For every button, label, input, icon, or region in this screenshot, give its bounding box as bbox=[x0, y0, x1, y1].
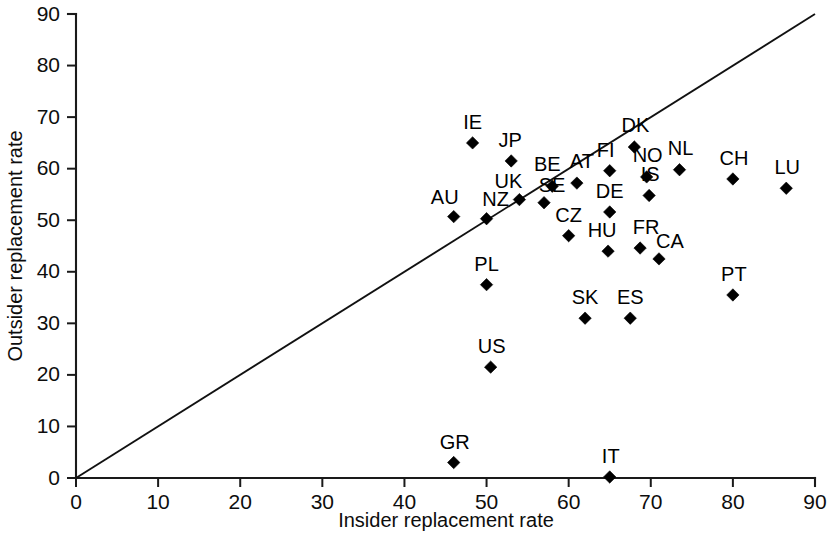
y-tick-label-0: 0 bbox=[48, 466, 60, 489]
x-tick-label-80: 80 bbox=[721, 490, 744, 513]
y-tick-label-50: 50 bbox=[37, 208, 60, 231]
data-point-label-pt: PT bbox=[721, 263, 747, 285]
data-point-jp bbox=[505, 155, 517, 167]
data-point-ca bbox=[653, 253, 665, 265]
data-point-lu bbox=[780, 182, 792, 194]
equality-reference-line bbox=[76, 14, 815, 478]
data-point-label-be: BE bbox=[534, 153, 561, 175]
y-tick-label-40: 40 bbox=[37, 259, 60, 282]
y-tick-label-60: 60 bbox=[37, 156, 60, 179]
data-point-de bbox=[604, 206, 616, 218]
y-tick-label-80: 80 bbox=[37, 53, 60, 76]
data-point-label-nl: NL bbox=[668, 137, 694, 159]
data-point-label-au: AU bbox=[431, 186, 459, 208]
data-point-uk bbox=[513, 193, 525, 205]
data-point-it bbox=[604, 471, 616, 483]
scatter-chart-figure: 0102030405060708090 0102030405060708090 … bbox=[0, 0, 832, 536]
data-point-label-gr: GR bbox=[440, 431, 470, 453]
x-tick-label-30: 30 bbox=[311, 490, 334, 513]
x-tick-label-70: 70 bbox=[639, 490, 662, 513]
y-axis-ticks bbox=[67, 14, 76, 478]
data-point-label-es: ES bbox=[617, 286, 644, 308]
data-point-label-sk: SK bbox=[572, 286, 599, 308]
data-point-label-ie: IE bbox=[463, 111, 482, 133]
y-tick-label-70: 70 bbox=[37, 105, 60, 128]
data-point-cz bbox=[562, 229, 574, 241]
x-axis-ticks bbox=[76, 478, 815, 487]
data-point-ch bbox=[727, 173, 739, 185]
data-point-label-se: SE bbox=[539, 174, 566, 196]
x-tick-label-20: 20 bbox=[229, 490, 252, 513]
data-point-fr bbox=[634, 242, 646, 254]
data-point-us bbox=[484, 361, 496, 373]
y-axis-tick-labels: 0102030405060708090 bbox=[37, 2, 60, 489]
data-point-fi bbox=[604, 165, 616, 177]
data-point-pt bbox=[727, 289, 739, 301]
data-point-label-hu: HU bbox=[588, 219, 617, 241]
data-point-hu bbox=[602, 245, 614, 257]
scatter-plot-canvas: 0102030405060708090 0102030405060708090 … bbox=[0, 0, 832, 536]
data-point-at bbox=[571, 177, 583, 189]
y-tick-label-10: 10 bbox=[37, 414, 60, 437]
data-point-label-ca: CA bbox=[656, 230, 684, 252]
y-tick-label-90: 90 bbox=[37, 2, 60, 25]
data-point-ie bbox=[466, 137, 478, 149]
data-point-label-us: US bbox=[478, 335, 506, 357]
data-point-au bbox=[448, 210, 460, 222]
data-point-sk bbox=[579, 312, 591, 324]
data-point-label-fi: FI bbox=[597, 139, 615, 161]
x-axis-title: Insider replacement rate bbox=[338, 509, 554, 531]
data-point-label-ch: CH bbox=[719, 147, 748, 169]
x-tick-label-90: 90 bbox=[803, 490, 826, 513]
data-point-gr bbox=[448, 456, 460, 468]
data-point-is bbox=[643, 189, 655, 201]
data-point-label-it: IT bbox=[602, 445, 620, 467]
data-point-label-lu: LU bbox=[774, 156, 800, 178]
y-axis-title: Outsider replacement rate bbox=[4, 130, 26, 361]
data-point-label-is: IS bbox=[641, 163, 660, 185]
x-tick-label-10: 10 bbox=[146, 490, 169, 513]
data-point-label-at: AT bbox=[570, 150, 594, 172]
data-point-label-pl: PL bbox=[474, 253, 498, 275]
y-tick-label-30: 30 bbox=[37, 311, 60, 334]
data-point-pl bbox=[480, 278, 492, 290]
data-point-label-dk: DK bbox=[621, 114, 649, 136]
data-point-label-de: DE bbox=[596, 180, 624, 202]
data-point-label-jp: JP bbox=[499, 129, 522, 151]
data-point-es bbox=[624, 312, 636, 324]
data-point-label-uk: UK bbox=[495, 170, 523, 192]
x-tick-label-0: 0 bbox=[70, 490, 82, 513]
data-point-se bbox=[538, 196, 550, 208]
data-point-nl bbox=[673, 163, 685, 175]
y-tick-label-20: 20 bbox=[37, 362, 60, 385]
x-tick-label-60: 60 bbox=[557, 490, 580, 513]
data-point-label-cz: CZ bbox=[555, 204, 582, 226]
